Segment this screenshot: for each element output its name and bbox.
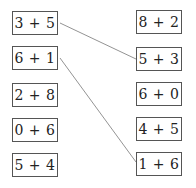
left-box-1[interactable]: 3 + 5 [12, 11, 58, 35]
connection-line-6plus1-to-1plus6 [60, 58, 136, 162]
right-box-4[interactable]: 4 + 5 [136, 117, 182, 141]
left-box-label: 5 + 4 [15, 157, 56, 173]
left-box-3[interactable]: 2 + 8 [12, 83, 58, 107]
right-box-label: 6 + 0 [139, 86, 180, 102]
left-box-label: 2 + 8 [15, 87, 56, 103]
right-box-1[interactable]: 8 + 2 [136, 10, 182, 34]
right-box-label: 8 + 2 [139, 14, 180, 30]
left-box-label: 6 + 1 [15, 50, 56, 66]
connection-line-3plus5-to-5plus3 [60, 23, 136, 59]
right-box-2[interactable]: 5 + 3 [136, 47, 182, 71]
left-box-label: 3 + 5 [15, 15, 56, 31]
right-box-label: 5 + 3 [139, 51, 180, 67]
left-box-4[interactable]: 0 + 6 [12, 118, 58, 142]
right-box-label: 4 + 5 [139, 121, 180, 137]
right-box-5[interactable]: 1 + 6 [136, 152, 182, 176]
right-box-3[interactable]: 6 + 0 [136, 82, 182, 106]
right-box-label: 1 + 6 [139, 156, 180, 172]
left-box-label: 0 + 6 [15, 122, 56, 138]
left-box-5[interactable]: 5 + 4 [12, 153, 58, 177]
left-box-2[interactable]: 6 + 1 [12, 46, 58, 70]
